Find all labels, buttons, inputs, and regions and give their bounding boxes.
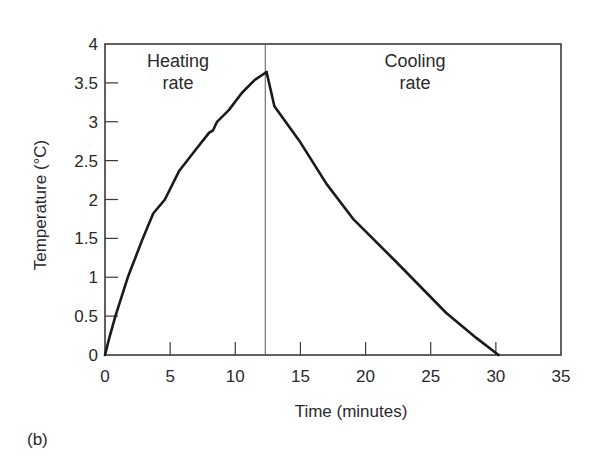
y-tick-label: 2.5	[74, 152, 98, 171]
x-tick-label: 0	[100, 367, 109, 386]
x-tick-label: 10	[226, 367, 245, 386]
y-tick-label: 3.5	[74, 74, 98, 93]
x-tick-label: 5	[165, 367, 174, 386]
panel-label: (b)	[27, 430, 48, 450]
x-tick-label: 35	[552, 367, 571, 386]
y-tick-label: 0.5	[74, 307, 98, 326]
x-tick-label: 25	[421, 367, 440, 386]
annotation-text: Cooling	[385, 51, 446, 71]
annotation-text: Heating	[147, 51, 209, 71]
x-tick-label: 30	[486, 367, 505, 386]
annotation-text: rate	[162, 73, 193, 93]
cooling-curve	[267, 72, 499, 355]
x-tick-label: 15	[291, 367, 310, 386]
y-tick-label: 1.5	[74, 229, 98, 248]
x-axis-title: Time (minutes)	[295, 402, 408, 421]
heating-curve	[105, 72, 267, 355]
x-tick-label: 20	[356, 367, 375, 386]
y-tick-label: 2	[89, 191, 98, 210]
annotation-text: rate	[400, 73, 431, 93]
annotations: HeatingrateCoolingrate	[147, 51, 446, 93]
y-tick-label: 3	[89, 113, 98, 132]
temperature-chart: 0510152025303500.511.522.533.54 Heatingr…	[0, 0, 602, 466]
y-tick-label: 1	[89, 268, 98, 287]
axis-ticks: 0510152025303500.511.522.533.54	[74, 35, 570, 386]
data-series	[105, 72, 499, 355]
y-tick-label: 4	[89, 35, 98, 54]
y-axis-title: Temperature (°C)	[31, 140, 50, 271]
y-tick-label: 0	[89, 346, 98, 365]
